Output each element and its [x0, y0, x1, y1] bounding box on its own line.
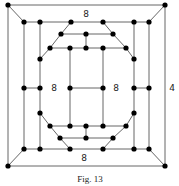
graph-node [21, 146, 26, 151]
graph-node [21, 85, 26, 90]
graph-node [123, 123, 128, 128]
graph-node [83, 123, 88, 128]
outer-right-label: 4 [169, 83, 175, 93]
graph-node [162, 2, 167, 7]
graph-node [146, 146, 151, 151]
graph-node [131, 85, 136, 90]
graph-node [100, 45, 105, 50]
graph-diagram: 8 8 8 4 8 Fig. 13 [0, 0, 179, 186]
graph-node [100, 123, 105, 128]
graph-node [37, 146, 42, 151]
left-inner-label: 8 [51, 83, 57, 93]
graph-nodes [5, 2, 167, 168]
graph-node [37, 19, 42, 24]
graph-node [83, 45, 88, 50]
graph-node [58, 31, 63, 36]
graph-node [123, 45, 128, 50]
graph-node [131, 56, 136, 61]
graph-edge [8, 5, 24, 22]
graph-edge [113, 34, 126, 48]
graph-node [67, 146, 72, 151]
figure-caption: Fig. 13 [77, 174, 103, 184]
graph-node [131, 19, 136, 24]
graph-node [100, 19, 105, 24]
graph-node [110, 135, 115, 140]
graph-node [162, 163, 167, 168]
graph-node [100, 85, 105, 90]
bottom-edge-label: 8 [81, 153, 87, 163]
graph-edge [113, 126, 126, 138]
graph-node [21, 19, 26, 24]
graph-node [37, 110, 42, 115]
graph-edge [149, 5, 165, 22]
graph-edges [8, 5, 165, 166]
graph-node [100, 146, 105, 151]
graph-node [83, 31, 88, 36]
graph-node [131, 146, 136, 151]
graph-node [37, 85, 42, 90]
graph-node [68, 19, 73, 24]
graph-node [146, 19, 151, 24]
graph-node [131, 110, 136, 115]
graph-node [67, 45, 72, 50]
graph-node [110, 31, 115, 36]
graph-edge [8, 149, 24, 166]
graph-node [57, 135, 62, 140]
top-edge-label: 8 [83, 9, 89, 19]
graph-node [83, 135, 88, 140]
graph-node [5, 2, 10, 7]
graph-node [37, 56, 42, 61]
graph-node [47, 45, 52, 50]
graph-edge [50, 34, 61, 48]
graph-node [67, 123, 72, 128]
graph-edge [149, 149, 165, 166]
right-inner-label: 8 [113, 83, 119, 93]
graph-node [5, 163, 10, 168]
graph-node [47, 123, 52, 128]
graph-node [146, 85, 151, 90]
graph-node [67, 85, 72, 90]
